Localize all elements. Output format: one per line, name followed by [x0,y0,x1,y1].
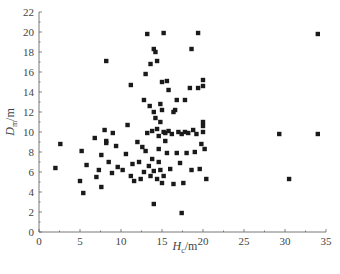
data-point [135,140,139,144]
data-point [155,177,159,181]
data-point [110,171,114,175]
data-point [171,110,175,114]
data-point [199,142,203,146]
data-point [94,175,98,179]
data-point [155,127,159,131]
data-point [148,104,152,108]
data-point [93,136,97,140]
x-tick-label: 10 [116,235,128,247]
data-point [99,153,103,157]
data-point [198,167,202,171]
data-point [148,174,152,178]
data-point [316,32,320,36]
data-point [157,134,161,138]
data-point [158,102,162,106]
data-point [157,147,161,151]
data-point [194,132,198,136]
data-point [84,163,88,167]
data-point [107,160,111,164]
data-point [316,132,320,136]
y-tick-label: 6 [29,166,35,178]
data-point [160,80,164,84]
data-point [202,147,206,151]
data-point [81,191,85,195]
x-tick-label: 15 [157,235,169,247]
data-point [191,128,195,132]
data-point [165,79,169,83]
data-point [175,98,179,102]
x-tick-label: 25 [239,235,251,247]
data-point [143,149,147,153]
data-point [153,116,157,120]
data-point [111,131,115,135]
data-point [161,174,165,178]
figure-caption-faint [80,262,260,268]
data-point [120,168,124,172]
data-point [201,78,205,82]
x-tick-label: 0 [36,235,42,247]
x-axis-title: Hc/m [172,239,199,255]
y-tick-label: 16 [23,66,35,78]
y-tick-label: 20 [23,26,35,38]
data-point [166,88,170,92]
y-tick-label: 8 [29,146,35,158]
data-point [79,149,83,153]
data-point [78,179,82,183]
x-tick-label: 30 [280,235,292,247]
data-point [116,165,120,169]
data-point [137,160,141,164]
data-point [58,142,62,146]
data-point [148,62,152,66]
data-point [143,72,147,76]
axes: 051015202530350246810121416182022 [23,6,332,247]
y-tick-label: 10 [23,126,35,138]
data-point [145,131,149,135]
data-point [132,179,136,183]
y-tick-label: 2 [29,206,35,218]
data-point [99,185,103,189]
data-point [153,50,157,54]
data-point [196,31,200,35]
data-point [157,160,161,164]
data-point [142,170,146,174]
data-point [140,145,144,149]
data-point [175,151,179,155]
data-point [158,120,162,124]
data-point [152,169,156,173]
y-tick-label: 14 [23,86,35,98]
data-point [125,123,129,127]
scatter-chart: 051015202530350246810121416182022 Hc/m D… [0,0,340,274]
data-point [181,181,185,185]
data-point [150,129,154,133]
data-point [201,84,205,88]
x-tick-label: 5 [77,235,83,247]
data-point [204,177,208,181]
y-tick-label: 22 [23,6,34,18]
data-point [150,157,154,161]
data-point [160,108,164,112]
data-point [189,47,193,51]
data-point [142,98,146,102]
data-point [189,168,193,172]
data-point [178,161,182,165]
data-point [168,167,172,171]
data-point [124,152,128,156]
data-point [196,86,200,90]
y-tick-label: 18 [23,46,35,58]
data-point [155,59,159,63]
data-point [188,86,192,90]
data-point [179,211,183,215]
data-point [53,166,57,170]
y-tick-label: 12 [23,106,34,118]
data-point [186,131,190,135]
data-point [97,168,101,172]
data-point [287,177,291,181]
data-point [104,141,108,145]
data-point [161,31,165,35]
x-tick-label: 20 [198,235,210,247]
data-point [171,182,175,186]
data-point [201,130,205,134]
data-point [158,168,162,172]
data-point [129,83,133,87]
x-tick-label: 35 [321,235,333,247]
